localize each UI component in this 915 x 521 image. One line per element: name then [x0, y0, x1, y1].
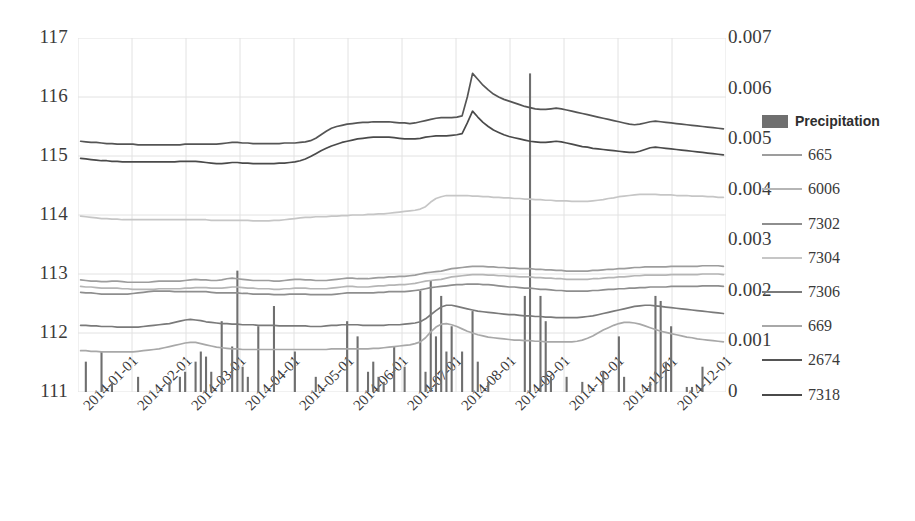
precipitation-bar	[383, 382, 385, 392]
legend-item[interactable]: 7306	[762, 275, 912, 309]
legend-swatch-line-icon	[762, 223, 802, 225]
left-axis-tick: 116	[18, 85, 68, 107]
precipitation-bar	[210, 372, 212, 392]
legend-item[interactable]: 2674	[762, 343, 912, 377]
precipitation-bar	[451, 326, 453, 392]
precipitation-bar	[566, 377, 568, 392]
precipitation-bar	[247, 377, 249, 392]
right-axis-tick: 0.007	[728, 26, 772, 48]
left-axis-tick: 115	[18, 144, 68, 166]
precipitation-bar	[372, 362, 374, 392]
precipitation-bar	[477, 362, 479, 392]
legend-item[interactable]: 669	[762, 309, 912, 343]
precipitation-bar	[686, 387, 688, 392]
precipitation-bar	[393, 346, 395, 392]
precipitation-bar	[670, 326, 672, 392]
legend-item[interactable]: 7302	[762, 207, 912, 241]
legend-item-label: 7306	[808, 283, 840, 301]
right-axis-tick: 0	[728, 380, 738, 402]
legend-swatch-line-icon	[762, 154, 802, 156]
legend-item-label: 2674	[808, 351, 840, 369]
precipitation-bar	[195, 362, 197, 392]
precipitation-bar	[440, 296, 442, 392]
precipitation-bar	[205, 357, 207, 392]
precipitation-bar	[367, 372, 369, 392]
legend-item-label: 665	[808, 146, 832, 164]
gridlines	[78, 38, 726, 392]
legend-item[interactable]: 7318	[762, 378, 912, 412]
precipitation-bar	[257, 326, 259, 392]
precipitation-bar	[701, 367, 703, 392]
right-axis-tick: 0.006	[728, 77, 772, 99]
legend-swatch-line-icon	[762, 188, 802, 190]
legend-item-label: 7318	[808, 386, 840, 404]
precipitation-bar	[691, 387, 693, 392]
legend-item[interactable]: Precipitation	[762, 104, 912, 138]
precipitation-bar	[231, 346, 233, 392]
precipitation-bar	[602, 372, 604, 392]
precipitation-bar	[581, 382, 583, 392]
precipitation-bar	[623, 377, 625, 392]
precipitation-bar	[435, 336, 437, 392]
precipitation-bar	[111, 382, 113, 392]
legend-item-label: Precipitation	[795, 113, 880, 129]
legend-item[interactable]: 665	[762, 138, 912, 172]
legend-swatch-line-icon	[762, 257, 802, 259]
left-axis-tick: 112	[18, 321, 68, 343]
precipitation-bar	[445, 352, 447, 392]
precipitation-bar	[315, 377, 317, 392]
legend-item[interactable]: 7304	[762, 241, 912, 275]
legend-swatch-bar-icon	[762, 115, 788, 128]
legend-item-label: 669	[808, 317, 832, 335]
left-axis-tick: 117	[18, 26, 68, 48]
precipitation-bar	[221, 321, 223, 392]
precipitation-bar	[100, 352, 102, 392]
legend-swatch-line-icon	[762, 394, 802, 396]
precipitation-bar	[346, 321, 348, 392]
legend-item-label: 7302	[808, 215, 840, 233]
precipitation-bar	[357, 336, 359, 392]
chart-root: 117116115114113112111 0.0070.0060.0050.0…	[0, 0, 915, 521]
precipitation-bar	[654, 296, 656, 392]
precipitation-bar	[430, 281, 432, 392]
precipitation-bar	[424, 372, 426, 392]
precipitation-bar	[179, 377, 181, 392]
legend-item[interactable]: 6006	[762, 172, 912, 206]
precipitation-bar	[529, 73, 531, 392]
plot-svg	[78, 38, 726, 392]
legend-item-label: 7304	[808, 249, 840, 267]
precipitation-bar	[524, 296, 526, 392]
precipitation-bar	[649, 382, 651, 392]
left-axis-tick: 111	[18, 380, 68, 402]
precipitation-bar	[377, 377, 379, 392]
left-axis-tick: 113	[18, 262, 68, 284]
precipitation-bar	[539, 296, 541, 392]
legend-swatch-line-icon	[762, 359, 802, 361]
plot-area	[78, 38, 726, 392]
precipitation-bar	[404, 367, 406, 392]
precipitation-bar	[545, 321, 547, 392]
precipitation-bar	[85, 362, 87, 392]
left-axis-tick: 114	[18, 203, 68, 225]
legend-item-label: 6006	[808, 180, 840, 198]
legend-swatch-line-icon	[762, 291, 802, 293]
precipitation-bar	[200, 352, 202, 392]
precipitation-bar	[472, 311, 474, 392]
precipitation-bar	[242, 367, 244, 392]
precipitation-bar	[137, 377, 139, 392]
legend: Precipitation665600673027304730666926747…	[762, 104, 912, 412]
precipitation-bar	[618, 336, 620, 392]
precipitation-bar	[168, 382, 170, 392]
precipitation-bar	[487, 382, 489, 392]
legend-swatch-line-icon	[762, 325, 802, 327]
precipitation-bar	[665, 362, 667, 392]
precipitation-bar	[461, 352, 463, 392]
precipitation-bar	[184, 372, 186, 392]
precipitation-bar	[550, 377, 552, 392]
precipitation-bar	[660, 301, 662, 392]
precipitation-bar	[294, 352, 296, 392]
precipitation-bar	[236, 271, 238, 392]
